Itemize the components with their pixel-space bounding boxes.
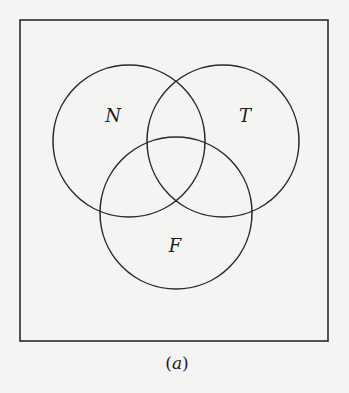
universe-rectangle (20, 20, 328, 341)
set-label-f: F (168, 235, 183, 256)
caption-close-paren: ) (182, 353, 189, 373)
caption-letter: a (172, 353, 182, 373)
set-circle-t (147, 65, 299, 217)
caption-open-paren: ( (165, 353, 172, 373)
venn-diagram-figure: N T F (a) (0, 0, 349, 393)
set-circle-n (53, 65, 205, 217)
figure-caption: (a) (165, 353, 188, 373)
set-label-t: T (239, 105, 253, 126)
set-label-n: N (104, 105, 122, 126)
set-circle-f (100, 137, 252, 289)
